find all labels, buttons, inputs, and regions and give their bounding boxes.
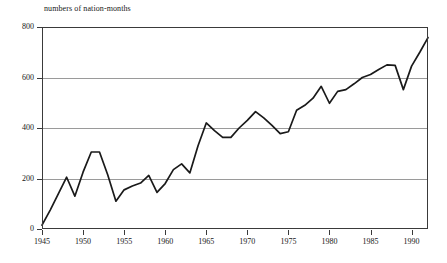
x-tick-mark <box>329 230 330 235</box>
x-tick-mark <box>83 230 84 235</box>
y-axis-tick-labels: 0200400600800 <box>4 27 34 229</box>
y-tick-label: 400 <box>6 124 34 132</box>
x-tick-label: 1950 <box>75 238 91 246</box>
y-tick-label: 200 <box>6 175 34 183</box>
line-series <box>42 27 428 229</box>
y-tick-label: 800 <box>6 23 34 31</box>
x-tick-label: 1975 <box>280 238 296 246</box>
chart-figure: numbers of nation-months 0200400600800 1… <box>0 0 447 263</box>
x-tick-label: 1960 <box>157 238 173 246</box>
x-tick-mark <box>247 230 248 235</box>
x-tick-label: 1985 <box>363 238 379 246</box>
x-tick-mark <box>124 230 125 235</box>
y-tick-label: 600 <box>6 74 34 82</box>
x-tick-label: 1980 <box>321 238 337 246</box>
x-axis-tick-labels: 1945195019551960196519701975198019851990 <box>42 238 428 250</box>
x-tick-mark <box>288 230 289 235</box>
x-tick-mark <box>42 230 43 235</box>
series-polyline <box>42 38 428 226</box>
x-tick-mark <box>371 230 372 235</box>
x-tick-label: 1990 <box>404 238 420 246</box>
x-tick-mark <box>412 230 413 235</box>
chart-axis-title: numbers of nation-months <box>44 4 131 13</box>
y-tick-label: 0 <box>6 225 34 233</box>
x-tick-mark <box>165 230 166 235</box>
plot-area <box>42 27 428 229</box>
x-tick-mark <box>206 230 207 235</box>
x-tick-label: 1955 <box>116 238 132 246</box>
x-axis-tick-marks <box>42 230 428 235</box>
x-tick-label: 1970 <box>239 238 255 246</box>
x-tick-label: 1965 <box>198 238 214 246</box>
x-tick-label: 1945 <box>34 238 50 246</box>
